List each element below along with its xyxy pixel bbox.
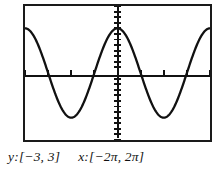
x-range-label: x:[−2π, 2π] xyxy=(78,149,144,165)
graph-screen-frame xyxy=(23,4,212,142)
window-range-caption: y:[−3, 3] x:[−2π, 2π] xyxy=(8,147,213,167)
calculator-graph-figure: y:[−3, 3] x:[−2π, 2π] xyxy=(0,0,221,172)
y-range-label: y:[−3, 3] xyxy=(8,149,60,165)
graph-plot xyxy=(25,6,210,140)
